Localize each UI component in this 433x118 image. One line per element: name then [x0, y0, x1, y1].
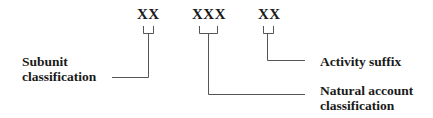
activity-suffix-label: Activity suffix [320, 54, 401, 69]
natural-account-code: XXX [192, 6, 226, 23]
activity-suffix-bracket [264, 26, 274, 34]
natural-account-connector [209, 34, 306, 95]
subunit-bracket [144, 26, 154, 34]
subunit-classification-label: Subunit classification [22, 54, 96, 84]
natural-account-classification-label: Natural account classification [320, 83, 413, 113]
activity-suffix-code: XX [258, 6, 281, 23]
activity-suffix-connector [268, 34, 306, 61]
natural-account-bracket [200, 26, 218, 34]
subunit-connector [112, 34, 149, 78]
subunit-code: XX [137, 6, 160, 23]
